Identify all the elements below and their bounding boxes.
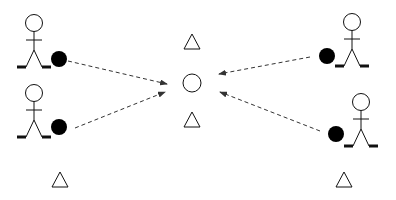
player-bottom-right — [328, 94, 378, 147]
cones-layer — [52, 34, 352, 187]
stick-figure-icon — [344, 94, 378, 147]
arrow-bottom-left — [75, 92, 165, 128]
player-top-right — [319, 14, 369, 67]
stick-figure-icon — [335, 14, 369, 67]
players-layer — [17, 14, 378, 147]
diagram-svg — [0, 0, 396, 200]
ball-icon — [328, 126, 344, 142]
arrows-layer — [68, 57, 320, 131]
target-circle-icon — [183, 74, 201, 92]
player-bottom-left — [17, 85, 67, 138]
stick-figure-icon — [17, 15, 51, 68]
ball-icon — [51, 119, 67, 135]
arrow-top-right — [219, 57, 310, 74]
ball-icon — [51, 51, 67, 67]
player-top-left — [17, 15, 67, 68]
diagram-canvas — [0, 0, 396, 200]
target-layer — [183, 74, 201, 92]
cone-bottom-center-triangle-icon — [184, 112, 200, 127]
arrow-top-left — [68, 61, 167, 84]
stick-figure-icon — [17, 85, 51, 138]
cone-top-center-triangle-icon — [184, 34, 200, 49]
cone-bottom-left-triangle-icon — [52, 172, 68, 187]
ball-icon — [319, 48, 335, 64]
cone-bottom-right-triangle-icon — [336, 172, 352, 187]
arrow-bottom-right — [220, 92, 320, 131]
